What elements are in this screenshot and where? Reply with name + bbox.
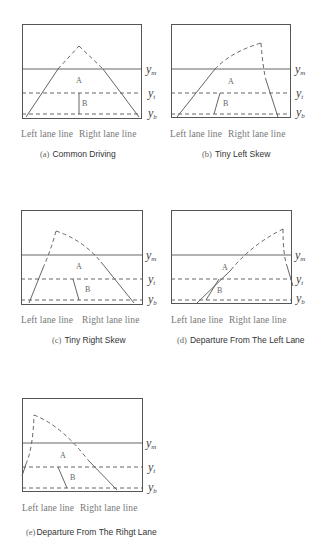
caption-a: (a)Common Driving — [40, 149, 116, 159]
right-lane-label: Right lane line — [80, 503, 137, 513]
panel-b-diagram — [171, 24, 291, 118]
panel-b-tiny-left-skew: A B — [171, 24, 291, 118]
y-b-label: yb — [148, 293, 157, 307]
y-b-label: yb — [296, 292, 305, 306]
caption-d: (d)Departure From The Left Lane — [177, 335, 305, 345]
region-label-a: A — [76, 76, 82, 85]
y-m-label: ym — [146, 63, 156, 77]
left-lane-label: Left lane line — [22, 503, 74, 513]
lane-labels-d: Left lane lineRight lane line — [171, 315, 286, 325]
y-b-label: yb — [148, 481, 157, 495]
panel-a-common-driving: A B — [22, 24, 142, 119]
right-lane-label: Right lane line — [82, 315, 139, 325]
caption-c: (c)Tiny Right Skew — [52, 335, 126, 345]
region-label-a: A — [60, 451, 66, 460]
panel-c-diagram — [21, 210, 143, 305]
y-b-label: yb — [296, 106, 305, 120]
y-m-label: ym — [146, 437, 156, 451]
left-lane-label: Left lane line — [21, 315, 73, 325]
panel-d-departure-left-lane: A B — [171, 210, 292, 304]
lane-labels-b: Left lane lineRight lane line — [170, 129, 285, 139]
caption-e: (e)Departure From The Rihgt Lane — [26, 527, 157, 537]
region-label-b: B — [82, 99, 87, 108]
region-label-a: A — [222, 263, 228, 272]
lane-labels-c: Left lane lineRight lane line — [21, 315, 139, 325]
y-m-label: ym — [295, 249, 305, 263]
left-lane-label: Left lane line — [21, 129, 73, 139]
panel-d-diagram — [171, 210, 292, 304]
panel-e-departure-right-lane: A B — [22, 398, 143, 492]
panel-e-diagram — [22, 398, 143, 492]
y-b-label: yb — [148, 107, 157, 121]
left-lane-label: Left lane line — [171, 315, 223, 325]
region-label-b: B — [217, 286, 222, 295]
region-label-a: A — [76, 262, 82, 271]
y-t-label: yt — [296, 87, 303, 101]
region-label-b: B — [70, 473, 75, 482]
lane-labels-a: Left lane lineRight lane line — [21, 129, 136, 139]
panel-c-tiny-right-skew: A B — [21, 210, 143, 305]
y-m-label: ym — [146, 249, 156, 263]
region-label-b: B — [223, 99, 228, 108]
y-m-label: ym — [295, 63, 305, 77]
region-label-b: B — [85, 285, 90, 294]
y-t-label: yt — [148, 461, 155, 475]
right-lane-label: Right lane line — [79, 129, 136, 139]
right-lane-label: Right lane line — [228, 129, 285, 139]
caption-b: (b)Tiny Left Skew — [202, 149, 270, 159]
region-label-a: A — [228, 77, 234, 86]
left-lane-label: Left lane line — [170, 129, 222, 139]
y-t-label: yt — [296, 273, 303, 287]
y-t-label: yt — [148, 87, 155, 101]
lane-labels-e: Left lane lineRight lane line — [22, 503, 137, 513]
right-lane-label: Right lane line — [229, 315, 286, 325]
y-t-label: yt — [148, 273, 155, 287]
